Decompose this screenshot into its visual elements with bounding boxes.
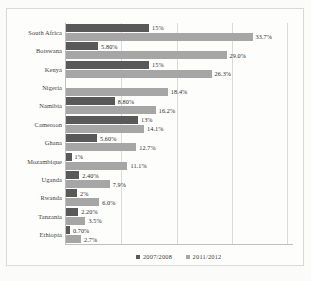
bar-line: 2.7% — [66, 235, 293, 243]
chart-row: Namibia8.80%16.2% — [66, 97, 293, 115]
bar-chart-figure: South Africa15%33.7%Botswana5.80%29.0%Ke… — [0, 0, 311, 281]
bar-value-label: 12.7% — [139, 144, 155, 151]
category-label: Namibia — [10, 97, 66, 115]
chart-row: Tanzania2.20%3.5% — [66, 207, 293, 225]
legend-item[interactable]: 2011/2012 — [186, 253, 221, 260]
chart-row: Nigeria18.4% — [66, 78, 293, 96]
legend-swatch-icon — [186, 255, 190, 259]
category-label: Botswana — [10, 41, 66, 59]
bar-series2 — [66, 125, 144, 133]
bar-line: 18.4% — [66, 88, 293, 96]
bar-value-label: 0.70% — [73, 227, 89, 234]
legend-item[interactable]: 2007/2008 — [136, 253, 172, 260]
bar-line: 11.1% — [66, 162, 293, 170]
bar-line: 13% — [66, 116, 293, 124]
bar-line: 8.80% — [66, 97, 293, 105]
chart-row: Ethiopia0.70%2.7% — [66, 226, 293, 244]
bar-line: 7.9% — [66, 180, 293, 188]
bar-value-label: 26.3% — [215, 70, 231, 77]
bar-line: 6.0% — [66, 198, 293, 206]
bar-value-label: 5.80% — [101, 43, 117, 50]
bar-line: 5.80% — [66, 42, 293, 50]
chart-rows: South Africa15%33.7%Botswana5.80%29.0%Ke… — [66, 23, 293, 244]
category-label: Rwanda — [10, 189, 66, 207]
bar-value-label: 15% — [152, 61, 164, 68]
bar-value-label: 33.7% — [256, 33, 272, 40]
bar-line: 1% — [66, 153, 293, 161]
chart-row: Ghana5.60%12.7% — [66, 134, 293, 152]
bar-value-label: 2.40% — [82, 172, 98, 179]
bar-series2 — [66, 106, 156, 114]
bar-line: 3.5% — [66, 217, 293, 225]
bar-series1 — [66, 153, 72, 161]
bar-series1 — [66, 97, 115, 105]
bar-line: 15% — [66, 24, 293, 32]
bar-series2 — [66, 70, 212, 78]
category-label: Cameroon — [10, 115, 66, 133]
bar-line — [66, 79, 293, 87]
legend-swatch-icon — [136, 255, 140, 259]
bar-value-label: 14.1% — [147, 125, 163, 132]
legend-label: 2011/2012 — [193, 253, 222, 260]
chart-legend: 2007/20082011/2012 — [65, 253, 293, 260]
chart-row: Mozambique1%11.1% — [66, 152, 293, 170]
bar-value-label: 2.7% — [84, 236, 97, 243]
chart-row: South Africa15%33.7% — [66, 23, 293, 41]
category-label: Mozambique — [10, 152, 66, 170]
bar-line: 12.7% — [66, 143, 293, 151]
chart-row: Cameroon13%14.1% — [66, 115, 293, 133]
bar-series1 — [66, 24, 149, 32]
bar-series1 — [66, 134, 97, 142]
bar-series1 — [66, 171, 79, 179]
bar-series2 — [66, 51, 227, 59]
bar-line: 0.70% — [66, 226, 293, 234]
bar-line: 15% — [66, 61, 293, 69]
bar-series1 — [66, 61, 149, 69]
bar-value-label: 18.4% — [171, 88, 187, 95]
bar-series2 — [66, 162, 127, 170]
bar-value-label: 15% — [152, 24, 164, 31]
bar-value-label: 6.0% — [102, 199, 115, 206]
bar-series1 — [66, 208, 78, 216]
bar-value-label: 11.1% — [130, 162, 146, 169]
bar-value-label: 2.20% — [81, 208, 97, 215]
bar-series2 — [66, 198, 99, 206]
bar-series1 — [66, 189, 77, 197]
legend-label: 2007/2008 — [143, 253, 172, 260]
bar-series2 — [66, 143, 136, 151]
category-label: South Africa — [10, 23, 66, 41]
bar-line: 5.60% — [66, 134, 293, 142]
bar-series2 — [66, 33, 253, 41]
bar-line: 2.20% — [66, 208, 293, 216]
bar-line: 16.2% — [66, 106, 293, 114]
bar-line: 26.3% — [66, 70, 293, 78]
bar-line: 14.1% — [66, 125, 293, 133]
bar-value-label: 13% — [141, 116, 153, 123]
bar-value-label: 3.5% — [88, 217, 101, 224]
bar-series1 — [66, 226, 70, 234]
chart-frame: South Africa15%33.7%Botswana5.80%29.0%Ke… — [6, 8, 304, 266]
bar-value-label: 5.60% — [100, 135, 116, 142]
chart-row: Rwanda2%6.0% — [66, 189, 293, 207]
bar-line: 2.40% — [66, 171, 293, 179]
bar-series1 — [66, 116, 138, 124]
bar-series2 — [66, 217, 85, 225]
category-label: Kenya — [10, 60, 66, 78]
bar-series2 — [66, 180, 110, 188]
category-label: Nigeria — [10, 78, 66, 96]
category-label: Uganda — [10, 170, 66, 188]
category-label: Ethiopia — [10, 226, 66, 244]
bar-value-label: 2% — [80, 190, 88, 197]
category-label: Tanzania — [10, 207, 66, 225]
bar-line: 2% — [66, 189, 293, 197]
bar-line: 33.7% — [66, 33, 293, 41]
bar-value-label: 16.2% — [159, 107, 175, 114]
plot-area: South Africa15%33.7%Botswana5.80%29.0%Ke… — [65, 23, 293, 245]
category-label: Ghana — [10, 134, 66, 152]
bar-series2 — [66, 88, 168, 96]
bar-value-label: 7.9% — [113, 181, 126, 188]
chart-row: Uganda2.40%7.9% — [66, 170, 293, 188]
bar-series1 — [66, 42, 98, 50]
chart-row: Botswana5.80%29.0% — [66, 41, 293, 59]
bar-value-label: 1% — [75, 153, 83, 160]
